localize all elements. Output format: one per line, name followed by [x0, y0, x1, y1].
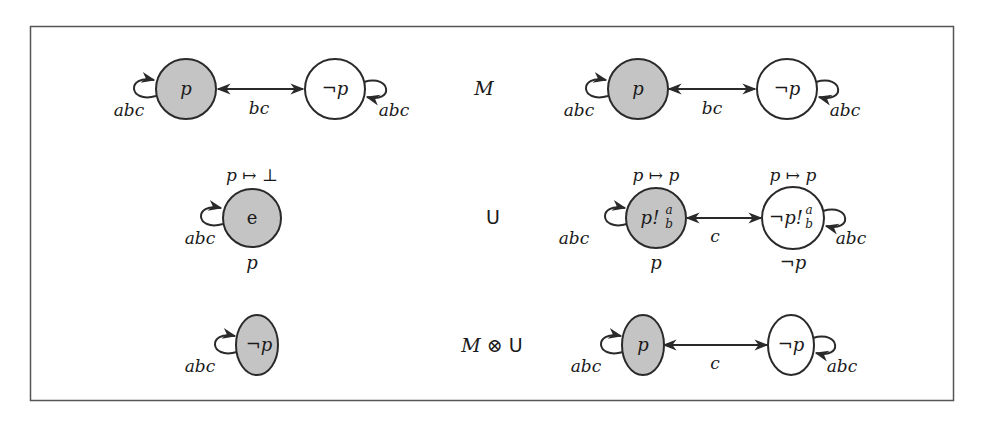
product-operator: ⊗: [487, 334, 503, 356]
edge-label: c: [710, 353, 720, 373]
loop-label: abc: [185, 356, 216, 376]
event-label-sup: a: [665, 203, 672, 217]
state-label: p: [632, 78, 644, 99]
loop-arrow-icon: [823, 210, 845, 227]
event-label-sub: b: [665, 217, 673, 231]
event-label-sub: b: [805, 217, 813, 231]
model-name-product: M⊗U: [460, 334, 522, 356]
event-label-sup: a: [805, 203, 812, 217]
product-name-U: U: [509, 334, 523, 356]
loop-arrow-icon: [201, 207, 223, 225]
loop-label: abc: [185, 228, 216, 248]
loop-arrow-icon: [601, 335, 623, 353]
loop-label: abc: [564, 100, 595, 120]
model-name-M: M: [473, 77, 494, 99]
state-label: ¬p: [778, 334, 805, 355]
loop-label: abc: [827, 356, 858, 376]
edge-label: c: [710, 226, 720, 246]
edge-label: bc: [702, 98, 723, 118]
loop-arrow-icon: [605, 207, 627, 225]
row-3-right-model: abc c p ¬p abc: [571, 315, 858, 376]
postcondition-label: ¬p: [780, 252, 807, 273]
row-1-right-model: abc bc p ¬p abc: [564, 59, 861, 120]
state-label: p: [180, 78, 192, 99]
loop-label: abc: [114, 100, 145, 120]
loop-label: abc: [836, 228, 867, 248]
edge-label: bc: [249, 98, 270, 118]
product-name-M: M: [460, 334, 481, 356]
event-label: e: [247, 207, 258, 228]
loop-arrow-icon: [364, 81, 386, 98]
event-label: ¬p!: [769, 207, 803, 228]
state-label: ¬p: [322, 78, 349, 99]
precondition-label: p ↦ ⊥: [226, 165, 278, 185]
loop-arrow-icon: [134, 79, 156, 97]
precondition-label: p ↦ p: [633, 165, 680, 185]
event-label-base: p!: [641, 207, 660, 228]
loop-label: abc: [830, 100, 861, 120]
row-2-left-model: p ↦ ⊥ abc e p: [185, 165, 281, 273]
precondition-label: p ↦ p: [770, 165, 817, 185]
loop-arrow-icon: [215, 335, 237, 353]
figure: abc bc p ¬p abc M abc bc p ¬p abc p ↦ ⊥ …: [0, 0, 984, 422]
loop-arrow-icon: [813, 337, 835, 354]
event-label: p!: [641, 207, 660, 228]
loop-label: abc: [559, 228, 590, 248]
loop-arrow-icon: [586, 79, 608, 97]
state-label: ¬p: [246, 334, 273, 355]
figure-canvas: abc bc p ¬p abc M abc bc p ¬p abc p ↦ ⊥ …: [0, 0, 984, 422]
model-name-U: U: [486, 206, 500, 228]
row-3-left-model: abc ¬p: [185, 315, 278, 376]
event-label-base: ¬p!: [769, 207, 803, 228]
loop-label: abc: [571, 356, 602, 376]
state-label: ¬p: [774, 78, 801, 99]
loop-label: abc: [379, 100, 410, 120]
loop-arrow-icon: [816, 81, 838, 98]
postcondition-label: p: [246, 252, 258, 273]
postcondition-label: p: [650, 252, 662, 273]
state-label: p: [637, 334, 649, 355]
row-1-left-model: abc bc p ¬p abc: [114, 59, 410, 120]
row-2-right-model: p ↦ p p ↦ p abc c p! a b ¬p! a b abc p ¬…: [559, 165, 867, 273]
